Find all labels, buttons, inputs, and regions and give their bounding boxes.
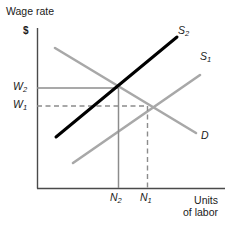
supply-curve-s2-label-subscript: 2 [185,29,189,38]
supply-curve-s2-label-base: S [178,24,185,36]
x-tick-label-labor2: N2 [110,192,122,205]
supply-curve-s2-label: S2 [178,25,189,38]
x-axis-title: Units of labor [183,195,218,219]
x-tick-label-labor1: N1 [140,192,152,205]
supply-curve-s1-label-subscript: 1 [207,55,211,64]
y-tick-label-wage2-base: W [13,80,23,92]
y-tick-label-wage2-subscript: 2 [23,85,27,94]
y-tick-label-wage1-base: W [13,98,23,110]
x-tick-label-labor1-subscript: 1 [148,196,152,205]
wage-rate-supply-demand-figure: Wage rate $ Units of labor S2 S1 D W2 W1… [0,0,231,235]
x-tick-label-labor2-subscript: 2 [118,196,122,205]
x-tick-label-labor1-base: N [140,191,148,203]
supply-curve-s2 [56,37,177,137]
supply-curve-s1-label-base: S [200,50,207,62]
y-axis-title: Wage rate [6,6,54,18]
y-tick-label-wage1-subscript: 1 [23,103,27,112]
supply-curve-s1-label: S1 [200,51,211,64]
x-tick-label-labor2-base: N [110,191,118,203]
demand-curve-label: D [201,130,209,142]
y-tick-label-wage1: W1 [13,99,27,112]
x-axis-title-line1: Units [183,195,218,207]
y-axis-unit-label: $ [23,25,29,36]
y-tick-label-wage2: W2 [13,81,27,94]
x-axis-title-line2: of labor [183,207,218,219]
